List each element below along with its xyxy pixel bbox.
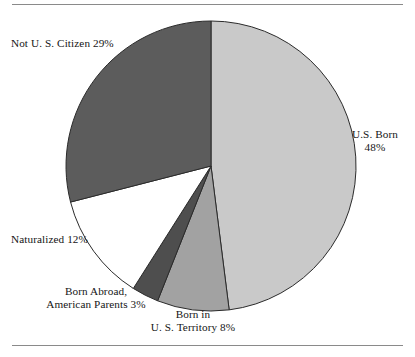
slice-label-line1: U.S. Born [352, 128, 398, 141]
slice-label-line1: Born Abroad, [30, 285, 162, 298]
bottom-divider-rule [12, 345, 403, 346]
pie-slice-us-born [211, 21, 356, 310]
slice-label-line2: U. S. Territory 8% [132, 321, 254, 334]
slice-label-line1: Born in [132, 308, 254, 321]
slice-label-line1: Naturalized 12% [11, 233, 88, 246]
slice-label-naturalized: Naturalized 12% [11, 233, 88, 246]
pie-chart-figure: Not U. S. Citizen 29% U.S. Born 48% Natu… [0, 0, 415, 357]
slice-label-born-in-us-territory: Born in U. S. Territory 8% [132, 308, 254, 335]
slice-label-not-us-citizen: Not U. S. Citizen 29% [11, 37, 114, 50]
slice-label-line1: Not U. S. Citizen 29% [11, 37, 114, 50]
slice-label-line2: 48% [352, 141, 398, 154]
slice-label-us-born: U.S. Born 48% [352, 128, 398, 155]
pie-slice-group [66, 21, 356, 311]
